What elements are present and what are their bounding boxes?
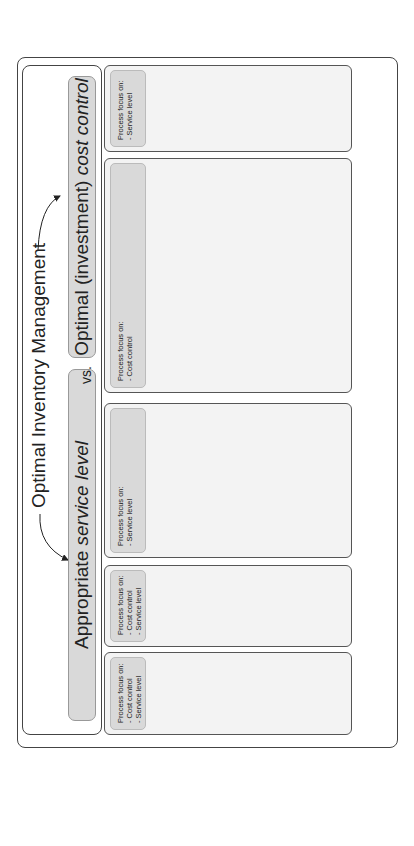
focus-box-purchase: Process focus on: - Cost control - Servi… — [110, 570, 146, 642]
cost-control-banner: Optimal (investment) cost control — [68, 76, 96, 358]
focus-title: Process focus on: — [116, 77, 125, 140]
focus-item: - Service level — [134, 664, 143, 723]
focus-box-goods-receipt: Process focus on: - Service level — [110, 408, 146, 553]
focus-title: Process focus on: — [116, 170, 125, 381]
service-level-prefix: Appropriate — [71, 546, 93, 650]
service-level-emph: service level — [71, 441, 93, 546]
vs-label: vs. — [78, 366, 94, 384]
focus-title: Process focus on: — [116, 577, 125, 635]
cost-control-emph: cost control — [71, 78, 93, 175]
focus-box-goods-issue: Process focus on: - Service level — [110, 70, 146, 147]
focus-item: - Cost control — [125, 170, 134, 381]
focus-title: Process focus on: — [116, 415, 125, 546]
service-level-banner: Appropriate service level — [68, 369, 96, 721]
focus-title: Process focus on: — [116, 664, 125, 723]
focus-box-forecasting: Process focus on: - Cost control - Servi… — [110, 657, 146, 730]
focus-item: - Cost control — [125, 664, 134, 723]
focus-box-storage: Process focus on: - Cost control — [110, 163, 146, 388]
inventory-management-diagram: Optimal Inventory Management Appropriate… — [0, 0, 414, 846]
focus-item: - Cost control — [125, 577, 134, 635]
focus-item: - Service level — [125, 77, 134, 140]
cost-control-prefix: Optimal (investment) — [71, 175, 93, 356]
focus-item: - Service level — [125, 415, 134, 546]
focus-item: - Service level — [134, 577, 143, 635]
